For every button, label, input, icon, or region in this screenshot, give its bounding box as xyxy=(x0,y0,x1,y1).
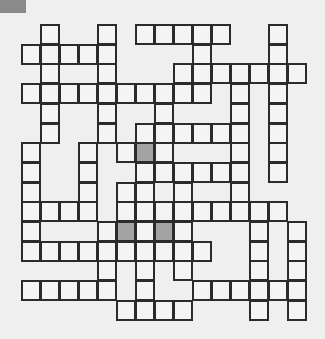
grid-cell[interactable] xyxy=(154,123,174,144)
grid-cell[interactable] xyxy=(192,162,212,183)
grid-cell[interactable] xyxy=(59,83,79,104)
grid-cell[interactable] xyxy=(154,24,174,45)
grid-cell[interactable] xyxy=(154,83,174,104)
grid-cell[interactable] xyxy=(173,162,193,183)
grid-cell[interactable] xyxy=(249,241,269,262)
grid-cell[interactable] xyxy=(287,221,307,242)
grid-cell[interactable] xyxy=(211,123,231,144)
grid-cell[interactable] xyxy=(249,221,269,242)
grid-cell[interactable] xyxy=(21,241,41,262)
grid-cell[interactable] xyxy=(230,201,250,222)
grid-cell[interactable] xyxy=(230,63,250,84)
grid-cell[interactable] xyxy=(21,162,41,183)
grid-cell[interactable] xyxy=(192,63,212,84)
grid-cell[interactable] xyxy=(230,103,250,124)
grid-cell[interactable] xyxy=(268,201,288,222)
grid-cell[interactable] xyxy=(97,83,117,104)
grid-cell[interactable] xyxy=(21,142,41,163)
grid-cell[interactable] xyxy=(268,123,288,144)
grid-cell[interactable] xyxy=(135,83,155,104)
grid-cell[interactable] xyxy=(97,241,117,262)
grid-cell[interactable] xyxy=(40,24,60,45)
grid-cell[interactable] xyxy=(78,83,98,104)
grid-cell[interactable] xyxy=(230,182,250,203)
grid-cell[interactable] xyxy=(249,300,269,321)
grid-cell[interactable] xyxy=(287,63,307,84)
grid-cell[interactable] xyxy=(135,182,155,203)
grid-cell[interactable] xyxy=(154,300,174,321)
grid-cell[interactable] xyxy=(40,63,60,84)
grid-cell[interactable] xyxy=(192,280,212,301)
grid-cell[interactable] xyxy=(78,44,98,65)
grid-cell[interactable] xyxy=(116,201,136,222)
grid-cell[interactable] xyxy=(268,83,288,104)
grid-cell[interactable] xyxy=(230,162,250,183)
grid-cell[interactable] xyxy=(97,63,117,84)
grid-cell[interactable] xyxy=(211,280,231,301)
grid-cell[interactable] xyxy=(211,63,231,84)
grid-cell[interactable] xyxy=(192,123,212,144)
grid-cell[interactable] xyxy=(59,280,79,301)
grid-cell[interactable] xyxy=(173,300,193,321)
grid-cell[interactable] xyxy=(40,123,60,144)
grid-cell[interactable] xyxy=(173,260,193,281)
grid-cell[interactable] xyxy=(230,280,250,301)
grid-cell[interactable] xyxy=(268,162,288,183)
grid-cell[interactable] xyxy=(268,44,288,65)
grid-cell[interactable] xyxy=(154,241,174,262)
grid-cell[interactable] xyxy=(78,241,98,262)
grid-cell[interactable] xyxy=(116,83,136,104)
grid-cell[interactable] xyxy=(173,221,193,242)
grid-cell[interactable] xyxy=(249,201,269,222)
grid-cell[interactable] xyxy=(97,280,117,301)
grid-cell[interactable] xyxy=(78,162,98,183)
grid-cell[interactable] xyxy=(230,123,250,144)
grid-cell[interactable] xyxy=(116,182,136,203)
grid-cell[interactable] xyxy=(21,221,41,242)
grid-cell[interactable] xyxy=(40,44,60,65)
grid-cell[interactable] xyxy=(268,63,288,84)
grid-cell[interactable] xyxy=(135,201,155,222)
grid-cell[interactable] xyxy=(173,241,193,262)
grid-cell[interactable] xyxy=(192,201,212,222)
grid-cell[interactable] xyxy=(287,260,307,281)
grid-cell[interactable] xyxy=(154,162,174,183)
grid-cell[interactable] xyxy=(59,241,79,262)
grid-cell[interactable] xyxy=(154,142,174,163)
grid-cell[interactable] xyxy=(40,241,60,262)
grid-cell[interactable] xyxy=(211,162,231,183)
grid-cell[interactable] xyxy=(21,44,41,65)
grid-cell[interactable] xyxy=(135,123,155,144)
grid-cell[interactable] xyxy=(287,300,307,321)
grid-cell[interactable] xyxy=(173,83,193,104)
shaded-grid-cell[interactable] xyxy=(116,221,136,242)
grid-cell[interactable] xyxy=(230,83,250,104)
grid-cell[interactable] xyxy=(173,24,193,45)
grid-cell[interactable] xyxy=(97,103,117,124)
grid-cell[interactable] xyxy=(173,63,193,84)
grid-cell[interactable] xyxy=(78,182,98,203)
grid-cell[interactable] xyxy=(287,280,307,301)
grid-cell[interactable] xyxy=(97,260,117,281)
grid-cell[interactable] xyxy=(97,24,117,45)
grid-cell[interactable] xyxy=(249,260,269,281)
grid-cell[interactable] xyxy=(173,201,193,222)
grid-cell[interactable] xyxy=(116,142,136,163)
grid-cell[interactable] xyxy=(173,123,193,144)
grid-cell[interactable] xyxy=(268,280,288,301)
grid-cell[interactable] xyxy=(116,300,136,321)
grid-cell[interactable] xyxy=(21,280,41,301)
grid-cell[interactable] xyxy=(21,83,41,104)
shaded-grid-cell[interactable] xyxy=(154,221,174,242)
grid-cell[interactable] xyxy=(135,221,155,242)
grid-cell[interactable] xyxy=(135,24,155,45)
grid-cell[interactable] xyxy=(192,44,212,65)
grid-cell[interactable] xyxy=(154,103,174,124)
grid-cell[interactable] xyxy=(268,103,288,124)
shaded-grid-cell[interactable] xyxy=(135,142,155,163)
grid-cell[interactable] xyxy=(268,24,288,45)
grid-cell[interactable] xyxy=(97,221,117,242)
grid-cell[interactable] xyxy=(59,44,79,65)
grid-cell[interactable] xyxy=(40,280,60,301)
grid-cell[interactable] xyxy=(135,300,155,321)
